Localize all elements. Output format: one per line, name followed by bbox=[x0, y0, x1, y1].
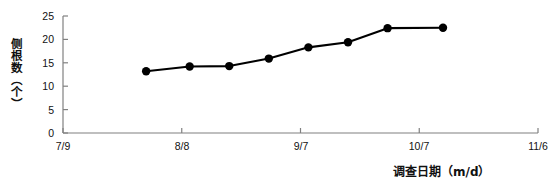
chart-figure: 侧根数（个） 调查日期（m/d） 25 20 15 10 5 0 7/9 8/8… bbox=[0, 0, 555, 191]
x-tick-marks bbox=[63, 128, 538, 133]
data-point bbox=[439, 24, 447, 32]
axis-lines bbox=[63, 16, 538, 133]
data-point bbox=[383, 24, 391, 32]
y-tick-marks bbox=[63, 16, 68, 133]
data-point bbox=[304, 43, 312, 51]
series-markers bbox=[142, 24, 447, 76]
plot-area bbox=[0, 0, 555, 191]
data-point bbox=[185, 62, 193, 70]
data-point bbox=[142, 67, 150, 75]
data-point bbox=[225, 62, 233, 70]
data-point bbox=[344, 38, 352, 46]
data-point bbox=[265, 54, 273, 62]
